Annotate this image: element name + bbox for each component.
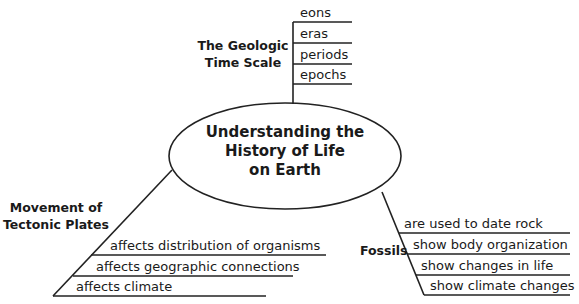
fossils-item: show body organization [413,237,568,252]
fossils-title: Fossils [360,243,408,258]
geologic-item: eras [300,26,328,41]
fossils-item: show changes in life [421,258,553,273]
title-line: Movement of [2,199,110,216]
geologic-time-scale-title: The Geologic Time Scale [195,37,291,71]
geologic-item: periods [300,47,348,62]
title-line: Tectonic Plates [2,216,110,233]
tectonic-plates-title: Movement of Tectonic Plates [2,199,110,233]
title-line: Time Scale [195,54,291,71]
central-topic-line: Understanding the [190,123,380,142]
central-topic: Understanding the History of Life on Ear… [190,123,380,180]
fossils-item: show climate changes [430,278,575,293]
tectonic-item: affects geographic connections [96,259,300,274]
central-topic-line: on Earth [190,161,380,180]
geologic-item: epochs [300,67,346,82]
geologic-item: eons [300,5,331,20]
tectonic-item: affects distribution of organisms [110,238,320,253]
fossils-item: are used to date rock [404,216,543,231]
central-topic-line: History of Life [190,142,380,161]
tectonic-item: affects climate [76,279,172,294]
title-line: The Geologic [195,37,291,54]
